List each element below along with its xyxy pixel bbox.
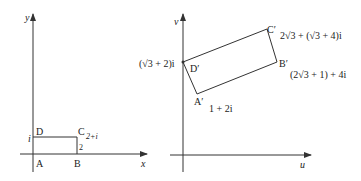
- right-v-axis-label: v: [174, 17, 178, 27]
- vertex-a-prime-value: 1 + 2i: [209, 104, 232, 114]
- vertex-b-label: B: [74, 159, 81, 169]
- vertex-c-prime-label: C′: [267, 25, 276, 35]
- vertex-b-prime-label: B′: [279, 59, 288, 69]
- vertex-b-prime-value: (2√3 + 1) + 4i: [290, 70, 346, 80]
- d-prime-point: [182, 61, 185, 64]
- vertex-d-prime-value: (√3 + 2)i: [139, 59, 175, 69]
- tick-y-label: i: [28, 134, 31, 144]
- vertex-c-value: 2+i: [86, 133, 98, 141]
- left-y-axis-label: y: [25, 13, 29, 23]
- left-x-axis-label: x: [141, 159, 145, 169]
- right-u-axis-label: u: [300, 160, 305, 170]
- vertex-d-prime-label: D′: [190, 64, 199, 74]
- right-rectangle: [183, 29, 277, 94]
- vertex-c-label: C: [78, 127, 85, 137]
- vertex-a-prime-label: A′: [194, 97, 203, 107]
- tick-x-label: 2: [79, 144, 83, 152]
- left-rectangle: [33, 137, 77, 154]
- diagram-canvas: [0, 0, 361, 181]
- vertex-c-prime-value: 2√3 + (√3 + 4)i: [280, 31, 342, 41]
- vertex-d-label: D: [36, 127, 43, 137]
- vertex-a-label: A: [36, 159, 43, 169]
